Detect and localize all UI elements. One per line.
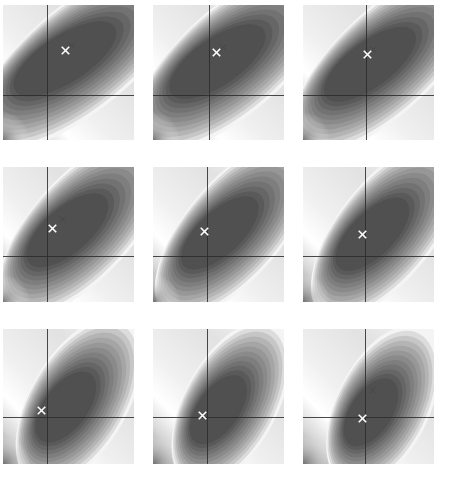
vertical-axis-line [366, 5, 367, 140]
horizontal-axis-line [153, 256, 284, 257]
marker-x [60, 45, 71, 56]
contour-field [153, 167, 284, 302]
contour-field [3, 167, 134, 302]
contour-field [153, 329, 284, 464]
horizontal-axis-line [303, 256, 434, 257]
marker-x [362, 49, 373, 60]
contour-field [303, 329, 434, 464]
marker-x [36, 405, 47, 416]
contour-field [153, 5, 284, 140]
contour-panel-4 [3, 167, 134, 302]
horizontal-axis-line [153, 95, 284, 96]
vertical-axis-line [365, 329, 366, 464]
contour-panel-9 [303, 329, 434, 464]
vertical-axis-line [47, 329, 48, 464]
vertical-axis-line [47, 167, 48, 302]
contour-panel-5 [153, 167, 284, 302]
horizontal-axis-line [303, 417, 434, 418]
contour-field [303, 5, 434, 140]
marker-x [211, 47, 222, 58]
horizontal-axis-line [3, 95, 134, 96]
contour-field [3, 5, 134, 140]
horizontal-axis-line [3, 417, 134, 418]
vertical-axis-line [207, 329, 208, 464]
contour-panel-3 [303, 5, 434, 140]
ghost-marker-x [368, 386, 377, 395]
horizontal-axis-line [303, 95, 434, 96]
vertical-axis-line [47, 5, 48, 140]
contour-panel-7 [3, 329, 134, 464]
horizontal-axis-line [3, 256, 134, 257]
contour-field [303, 167, 434, 302]
marker-x [199, 226, 210, 237]
contour-panel-8 [153, 329, 284, 464]
contour-field [3, 329, 134, 464]
contour-plot-grid [0, 0, 458, 478]
ghost-marker-x [58, 215, 67, 224]
marker-x [357, 229, 368, 240]
contour-panel-6 [303, 167, 434, 302]
marker-x [357, 413, 368, 424]
horizontal-axis-line [153, 417, 284, 418]
marker-x [197, 410, 208, 421]
marker-x [47, 223, 58, 234]
vertical-axis-line [209, 5, 210, 140]
contour-panel-1 [3, 5, 134, 140]
contour-panel-2 [153, 5, 284, 140]
